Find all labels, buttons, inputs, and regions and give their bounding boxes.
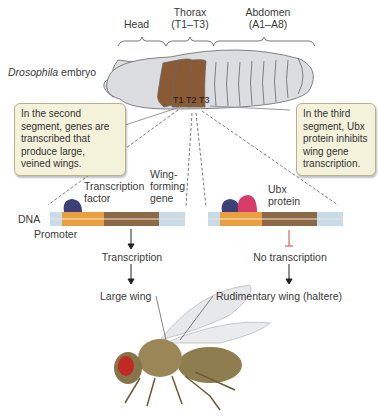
label-large-wing: Large wing (100, 290, 151, 302)
diagram-canvas (0, 0, 379, 417)
region-braces (118, 37, 315, 46)
label-dna: DNA (18, 213, 40, 225)
label-thorax-range: (T1–T3) (164, 18, 216, 30)
label-haltere: Rudimentary wing (haltere) (216, 290, 342, 302)
label-head: Head (124, 18, 149, 30)
label-ubx-protein: Ubx protein (268, 183, 300, 207)
segment-t2: T2 (186, 94, 197, 106)
label-thorax: Thorax (170, 6, 210, 18)
segment-t3: T3 (199, 94, 210, 106)
segment-t1: T1 (173, 94, 184, 106)
label-no-transcription: No transcription (244, 251, 336, 263)
label-transcription-factor: Transcription factor (84, 180, 144, 204)
label-abdomen: Abdomen (238, 6, 298, 18)
label-promoter: Promoter (34, 228, 77, 240)
label-wing-forming-gene: Wing- forming gene (150, 168, 185, 204)
embryo-label: Drosophila embryo (8, 66, 96, 78)
label-transcription: Transcription (96, 251, 168, 263)
label-abdomen-range: (A1–A8) (238, 18, 298, 30)
callout-third-segment: In the third segment, Ubx protein inhibi… (296, 103, 376, 176)
callout-second-segment: In the second segment, genes are transcr… (14, 103, 126, 176)
fly-illustration (114, 285, 270, 410)
